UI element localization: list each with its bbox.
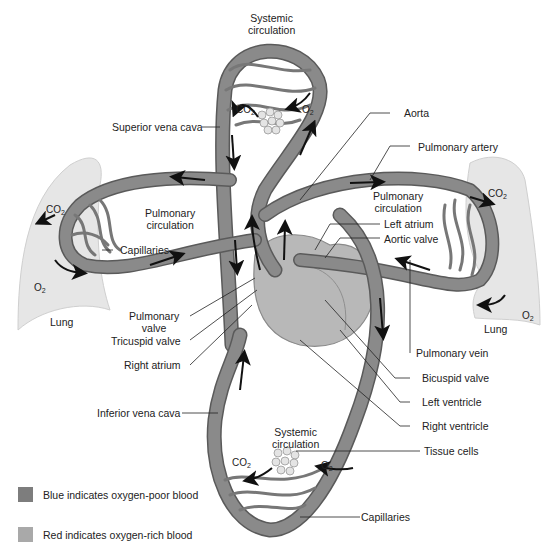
- legend-label: Red indicates oxygen-rich blood: [43, 529, 192, 541]
- label-aortic-valve: Aortic valve: [384, 233, 438, 245]
- gas-co2-left-lung: CO2: [46, 204, 65, 216]
- gas-text: O: [34, 282, 42, 293]
- gas-co2-right-lung: CO2: [488, 188, 507, 200]
- gas-sub: 2: [247, 462, 251, 469]
- gas-text: CO: [46, 204, 61, 215]
- label-line: circulation: [272, 438, 319, 450]
- gas-o2-right-lung: O2: [522, 310, 534, 322]
- label-pulmonary-circulation-left: Pulmonary circulation: [145, 207, 195, 231]
- tissue-cells-top: [258, 108, 284, 134]
- label-line: Pulmonary: [145, 207, 195, 219]
- legend-item-oxygen-rich: Red indicates oxygen-rich blood: [18, 527, 192, 542]
- label-line: circulation: [373, 202, 423, 214]
- diagram-artwork: [0, 0, 555, 558]
- gas-co2-top: CO2: [236, 104, 255, 116]
- label-left-atrium: Left atrium: [384, 218, 434, 230]
- label-aorta: Aorta: [404, 107, 429, 119]
- label-line: Pulmonary: [373, 190, 423, 202]
- gas-sub: 2: [61, 209, 65, 216]
- gas-sub: 2: [530, 315, 534, 322]
- gas-sub: 2: [329, 465, 333, 472]
- legend-swatch-oxygen-rich: [18, 527, 33, 542]
- circulation-diagram: Systemic circulation Superior vena cava …: [0, 0, 555, 558]
- label-pulmonary-valve: Pulmonary valve: [129, 310, 179, 334]
- gas-o2-bottom: O2: [321, 460, 333, 472]
- gas-sub: 2: [503, 193, 507, 200]
- label-right-atrium: Right atrium: [124, 359, 181, 371]
- label-lung-left: Lung: [50, 316, 73, 328]
- label-pulmonary-vein: Pulmonary vein: [416, 347, 488, 359]
- label-tricuspid-valve: Tricuspid valve: [111, 335, 181, 347]
- label-lung-right: Lung: [484, 323, 507, 335]
- label-superior-vena-cava: Superior vena cava: [112, 121, 202, 133]
- label-pulmonary-artery: Pulmonary artery: [418, 141, 498, 153]
- label-inferior-vena-cava: Inferior vena cava: [97, 407, 180, 419]
- legend-label: Blue indicates oxygen-poor blood: [43, 489, 198, 501]
- legend-swatch-oxygen-poor: [18, 487, 33, 502]
- gas-text: CO: [488, 188, 503, 199]
- label-tissue-cells: Tissue cells: [424, 445, 478, 457]
- label-line: Systemic: [272, 426, 319, 438]
- gas-co2-bottom: CO2: [232, 457, 251, 469]
- gas-o2-top: O2: [302, 104, 314, 116]
- gas-text: O: [302, 104, 310, 115]
- label-bicuspid-valve: Bicuspid valve: [422, 372, 489, 384]
- label-pulmonary-circulation-right: Pulmonary circulation: [373, 190, 423, 214]
- gas-sub: 2: [251, 109, 255, 116]
- label-line: Pulmonary: [129, 310, 179, 322]
- label-left-ventricle: Left ventricle: [422, 396, 482, 408]
- gas-sub: 2: [42, 287, 46, 294]
- label-right-ventricle: Right ventricle: [422, 420, 489, 432]
- label-capillaries-lung: Capillaries: [120, 244, 169, 256]
- lung-right: [466, 157, 540, 325]
- gas-o2-left-lung: O2: [34, 282, 46, 294]
- label-line: valve: [129, 322, 179, 334]
- gas-text: O: [522, 310, 530, 321]
- label-line: circulation: [145, 219, 195, 231]
- tissue-cells-bottom: [272, 447, 299, 475]
- gas-text: CO: [232, 457, 247, 468]
- label-line: Systemic: [248, 12, 295, 24]
- label-capillaries-systemic: Capillaries: [361, 511, 410, 523]
- gas-text: O: [321, 460, 329, 471]
- gas-text: CO: [236, 104, 251, 115]
- legend-item-oxygen-poor: Blue indicates oxygen-poor blood: [18, 487, 198, 502]
- label-systemic-circulation-top: Systemic circulation: [248, 12, 295, 36]
- label-systemic-circulation-bottom: Systemic circulation: [272, 426, 319, 450]
- label-line: circulation: [248, 24, 295, 36]
- gas-sub: 2: [310, 109, 314, 116]
